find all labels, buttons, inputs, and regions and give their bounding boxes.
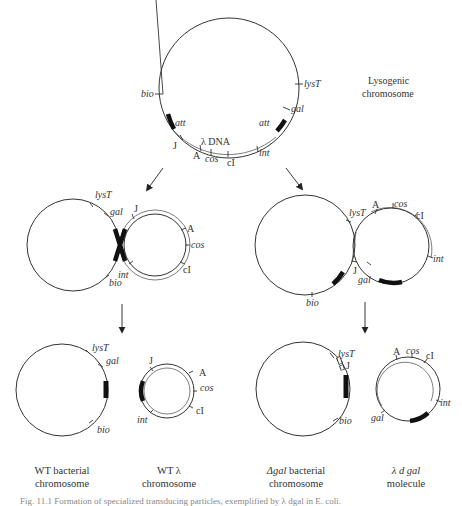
arrow-left [147, 168, 163, 190]
label-cI: cI [416, 210, 424, 221]
figure-footer-caption: Fig. 11.1 Formation of specialized trans… [20, 496, 341, 506]
caption-lambda-dgal-2: molecule [387, 478, 426, 489]
caption-wt-bacterial-2: chromosome [35, 478, 90, 489]
wt-lambda-chromosome: J A cos cI int [137, 355, 213, 425]
caption-dgal-rest: bacterial [286, 465, 325, 476]
label-int: int [440, 397, 451, 408]
label-cos: cos [191, 239, 204, 250]
label-lysT: lysT [92, 342, 110, 353]
label-bio: bio [306, 297, 319, 308]
label-J: J [346, 360, 350, 371]
transduction-diagram: bio lysT gal att att J λ DNA A cos cI in… [0, 0, 462, 506]
label-att-left: att [175, 117, 186, 128]
lambda-dgal-molecule: A cos cI int gal [371, 345, 451, 423]
lysogenic-chromosome: bio lysT gal att att J λ DNA A cos cI in… [141, 0, 414, 168]
label-lambda-dna: λ DNA [201, 136, 231, 147]
caption-dgal-prefix: Δgal [266, 465, 287, 476]
label-cI: cI [227, 157, 235, 168]
label-bio: bio [97, 424, 110, 435]
label-gal: gal [110, 206, 123, 217]
label-gal: gal [291, 103, 304, 114]
label-J: J [353, 265, 357, 276]
caption-wt-bacterial-1: WT bacterial [35, 465, 90, 476]
label-cos: cos [394, 198, 407, 209]
label-gal: gal [358, 274, 371, 285]
caption-dgal-bacterial-2: chromosome [269, 478, 324, 489]
dgal-bacterial-chromosome: lysT J bio [256, 342, 356, 436]
label-A: A [199, 367, 207, 378]
label-att-right: att [259, 117, 270, 128]
label-int: int [118, 269, 129, 280]
label-A: A [393, 346, 401, 357]
label-J: J [149, 355, 153, 366]
title-chromosome: chromosome [362, 88, 414, 99]
label-cos: cos [200, 382, 213, 393]
arrow-right [286, 168, 302, 189]
label-int: int [433, 253, 444, 264]
caption-wt-lambda-2: chromosome [142, 478, 197, 489]
label-cI: cI [426, 350, 434, 361]
caption-dgal-bacterial-1: Δgal bacterial [266, 465, 325, 476]
middle-left-integration: lysT gal bio int J A cos cI [27, 189, 204, 291]
label-int: int [259, 147, 270, 158]
label-cI: cI [183, 264, 191, 275]
label-gal: gal [371, 412, 384, 423]
label-lysT: lysT [349, 207, 367, 218]
caption-lambda-dgal-1: λ d gal [391, 465, 421, 476]
label-bio: bio [141, 88, 154, 99]
label-cos: cos [205, 153, 218, 164]
caption-wt-lambda-1: WT λ [157, 465, 182, 476]
middle-right-excision: lysT bio J gal A cos cI int [255, 195, 444, 308]
title-lysogenic: Lysogenic [368, 75, 410, 86]
label-bio: bio [339, 415, 352, 426]
wt-bacterial-chromosome: lysT gal bio [16, 342, 119, 436]
label-A: A [372, 199, 380, 210]
label-J: J [134, 203, 138, 214]
label-cos: cos [406, 345, 419, 356]
label-gal: gal [106, 355, 119, 366]
label-lysT: lysT [338, 348, 356, 359]
label-int: int [137, 414, 148, 425]
label-cI: cI [196, 405, 204, 416]
label-lysT: lysT [304, 78, 322, 89]
label-A: A [187, 223, 195, 234]
label-A: A [193, 150, 201, 161]
label-lysT: lysT [95, 189, 113, 200]
label-J: J [173, 140, 177, 151]
